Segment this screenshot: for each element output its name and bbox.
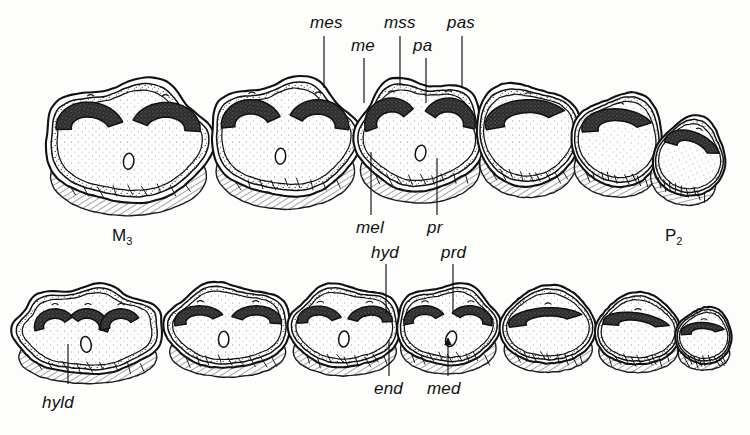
anatomy-label-mes: mes: [310, 13, 343, 33]
anatomy-label-me: me: [351, 36, 375, 56]
anatomy-label-med: med: [427, 379, 461, 399]
upper-cheek-tooth-row: [46, 76, 738, 216]
tooth-position-subscript-m3: 3: [126, 235, 132, 247]
anatomy-label-mss: mss: [384, 13, 416, 33]
anatomy-label-hyd: hyd: [371, 243, 399, 263]
anatomy-label-pr: pr: [427, 218, 443, 238]
anatomy-label-pa: pa: [413, 36, 432, 56]
anatomy-label-prd: prd: [441, 243, 466, 263]
tooth-position-subscript-p2: 2: [676, 235, 682, 247]
tooth-position-label-p2: P2: [665, 226, 682, 247]
anatomy-label-pas: pas: [447, 13, 475, 33]
anatomy-label-hyld: hyld: [42, 393, 74, 413]
anatomy-label-end: end: [374, 379, 403, 399]
tooth-row-figure: mesmsspasmepamelprhydprdendmedhyldM3P2: [0, 0, 750, 435]
anatomy-label-mel: mel: [356, 218, 384, 238]
lower-cheek-tooth-row: [11, 282, 731, 384]
tooth-position-label-m3: M3: [112, 226, 132, 247]
